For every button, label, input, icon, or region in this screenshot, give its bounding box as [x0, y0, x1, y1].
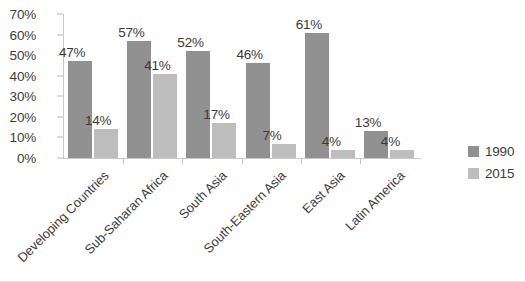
bar-value-label: 52%	[177, 35, 203, 50]
legend-label: 1990	[485, 144, 514, 159]
y-axis-tick-label: 30%	[10, 89, 36, 104]
x-axis-category-label: South Asia	[176, 168, 230, 222]
bar-chart: 0%10%20%30%40%50%60%70% 47%14%57%41%52%1…	[0, 0, 525, 282]
bar-value-label: 57%	[118, 25, 144, 40]
bar-value-label: 4%	[381, 134, 400, 149]
bar-value-label: 13%	[355, 115, 381, 130]
plot-area: 47%14%57%41%52%17%46%7%61%4%13%4%	[64, 14, 419, 158]
bar-2015	[212, 123, 236, 158]
y-axis-tick-label: 40%	[10, 68, 36, 83]
bar-2015	[153, 74, 177, 158]
legend-item[interactable]: 2015	[468, 162, 514, 184]
bar-group: 13%4%	[360, 14, 419, 158]
bar-value-label: 61%	[296, 17, 322, 32]
y-axis-tick-label: 0%	[17, 151, 36, 166]
legend-label: 2015	[485, 166, 514, 181]
legend-item[interactable]: 1990	[468, 140, 514, 162]
bar-group: 61%4%	[301, 14, 360, 158]
bar-value-label: 17%	[203, 107, 229, 122]
bar-1990	[246, 63, 270, 158]
bar-group: 57%41%	[123, 14, 182, 158]
legend-swatch-icon	[468, 168, 479, 179]
bar-2015	[390, 150, 414, 158]
y-axis-tick-label: 50%	[10, 48, 36, 63]
y-axis-tick-label: 20%	[10, 109, 36, 124]
bar-1990	[186, 51, 210, 158]
chart-legend: 19902015	[468, 140, 514, 184]
bar-value-label: 46%	[237, 47, 263, 62]
bar-value-label: 7%	[263, 128, 282, 143]
bar-group: 47%14%	[64, 14, 123, 158]
y-axis: 0%10%20%30%40%50%60%70%	[0, 0, 62, 160]
y-axis-tick-label: 60%	[10, 27, 36, 42]
x-axis-category-label: Latin America	[342, 168, 407, 233]
bar-group: 46%7%	[242, 14, 301, 158]
x-axis-labels: Developing CountriesSub-Saharan AfricaSo…	[64, 164, 424, 282]
bar-1990	[68, 61, 92, 158]
y-axis-tick-label: 10%	[10, 130, 36, 145]
bar-value-label: 4%	[322, 134, 341, 149]
legend-swatch-icon	[468, 146, 479, 157]
y-axis-tick-label: 70%	[10, 7, 36, 22]
bar-2015	[272, 144, 296, 158]
bar-group: 52%17%	[182, 14, 241, 158]
bar-value-label: 14%	[85, 113, 111, 128]
bar-2015	[94, 129, 118, 158]
x-axis-category-label: East Asia	[300, 168, 348, 216]
bar-value-label: 41%	[144, 58, 170, 73]
bar-2015	[331, 150, 355, 158]
bar-value-label: 47%	[59, 45, 85, 60]
